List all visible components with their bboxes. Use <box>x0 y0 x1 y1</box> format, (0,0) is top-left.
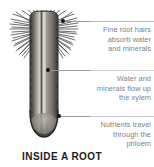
root-illustration <box>0 10 88 145</box>
inside-a-root-diagram: Fine root hairs absorb water and mineral… <box>0 0 154 167</box>
callout-rule-xylem <box>89 70 154 71</box>
callout-line: phloem <box>83 139 151 149</box>
callout-rule-root-hairs <box>89 21 154 22</box>
callout-dot-root-hairs <box>61 19 65 23</box>
callout-line: and minerals <box>83 44 151 54</box>
callout-line: Water and <box>83 74 151 84</box>
callout-line: Nutrients travel <box>83 120 151 130</box>
leader-line-phloem <box>60 116 90 117</box>
callout-dot-phloem <box>57 114 61 118</box>
callout-label-xylem: Water and minerals flow up the xylem <box>83 74 151 103</box>
callout-line: absorb water <box>83 35 151 45</box>
callout-label-phloem: Nutrients travel through the phloem <box>83 120 151 149</box>
callout-dot-xylem <box>46 68 50 72</box>
callout-label-root-hairs: Fine root hairs absorb water and mineral… <box>83 25 151 54</box>
callout-line: minerals flow up <box>83 84 151 94</box>
leader-line-xylem <box>49 70 90 71</box>
callout-line: the xylem <box>83 93 151 103</box>
figure-caption: INSIDE A ROOT <box>22 151 102 162</box>
callout-line: Fine root hairs <box>83 25 151 35</box>
callout-rule-phloem <box>89 116 154 117</box>
callout-line: through the <box>83 130 151 140</box>
leader-line-root-hairs <box>63 21 90 22</box>
